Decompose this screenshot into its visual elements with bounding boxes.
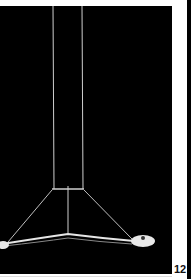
lamp-photo [0,6,172,274]
photo-bottom-border [0,276,172,277]
pendant-lamp-illustration [0,6,172,274]
stay-left [8,190,52,242]
suspension-cable-right [82,6,83,189]
adjacent-page-edge [187,0,191,279]
suspension-cable-left [53,6,54,189]
page-number: 12 [174,263,186,275]
stay-right [84,190,132,239]
